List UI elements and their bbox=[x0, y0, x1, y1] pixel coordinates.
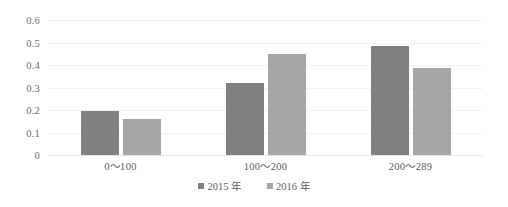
x-tick-label: 100～200 bbox=[193, 158, 338, 173]
bar[interactable] bbox=[123, 119, 161, 155]
bar[interactable] bbox=[81, 111, 119, 155]
x-tick-label: 0～100 bbox=[48, 158, 193, 173]
y-tick-label: 0.4 bbox=[26, 60, 40, 71]
bar[interactable] bbox=[371, 46, 409, 155]
y-tick-label: 0.2 bbox=[26, 105, 40, 116]
y-tick-label: 0 bbox=[35, 150, 40, 161]
bar[interactable] bbox=[226, 83, 264, 155]
bar-chart: 00.10.20.30.40.50.6 0～100100～200200～289 … bbox=[0, 0, 508, 207]
legend-label: 2016 年 bbox=[276, 178, 310, 193]
legend-item[interactable]: 2016 年 bbox=[267, 178, 310, 193]
y-tick-label: 0.6 bbox=[26, 15, 40, 26]
legend-swatch-icon bbox=[267, 183, 273, 189]
chart-legend: 2015 年2016 年 bbox=[0, 178, 508, 193]
bars-layer bbox=[48, 20, 483, 155]
legend-swatch-icon bbox=[198, 183, 204, 189]
x-tick-label: 200～289 bbox=[338, 158, 483, 173]
y-tick-label: 0.1 bbox=[26, 127, 40, 138]
y-axis: 00.10.20.30.40.50.6 bbox=[0, 20, 44, 155]
bar-group bbox=[338, 20, 483, 155]
legend-label: 2015 年 bbox=[207, 178, 241, 193]
bar[interactable] bbox=[413, 68, 451, 155]
bar[interactable] bbox=[268, 54, 306, 155]
y-tick-label: 0.3 bbox=[26, 82, 40, 93]
x-axis: 0～100100～200200～289 bbox=[48, 158, 483, 174]
axis-baseline bbox=[48, 155, 483, 156]
bar-group bbox=[193, 20, 338, 155]
legend-item[interactable]: 2015 年 bbox=[198, 178, 241, 193]
bar-group bbox=[48, 20, 193, 155]
y-tick-label: 0.5 bbox=[26, 37, 40, 48]
